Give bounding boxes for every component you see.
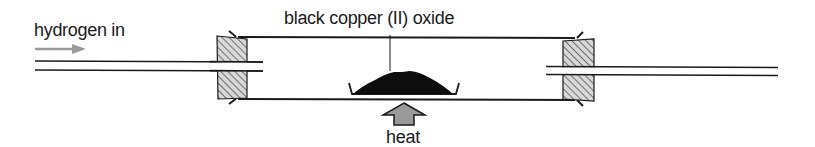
gas-flow-arrow-icon	[35, 44, 86, 54]
hydrogen-in-label: hydrogen in	[34, 21, 125, 39]
copper-oxide-powder	[353, 71, 453, 94]
copper-oxide-label: black copper (II) oxide	[284, 9, 454, 27]
right-bung	[562, 39, 595, 101]
boat	[349, 71, 459, 94]
apparatus-diagram: hydrogen in black copper (II) oxide heat	[0, 0, 815, 147]
heat-label: heat	[386, 128, 420, 146]
heat-arrow-icon	[383, 103, 425, 125]
left-bung	[210, 36, 263, 99]
